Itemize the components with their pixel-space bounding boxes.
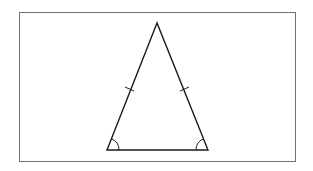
angle-arc-base-right	[196, 139, 204, 150]
triangle	[107, 23, 208, 150]
isosceles-triangle-figure	[0, 0, 313, 171]
figure-frame	[20, 13, 296, 162]
angle-arc-base-left	[111, 139, 119, 150]
tick-mark-left-side	[125, 87, 134, 91]
